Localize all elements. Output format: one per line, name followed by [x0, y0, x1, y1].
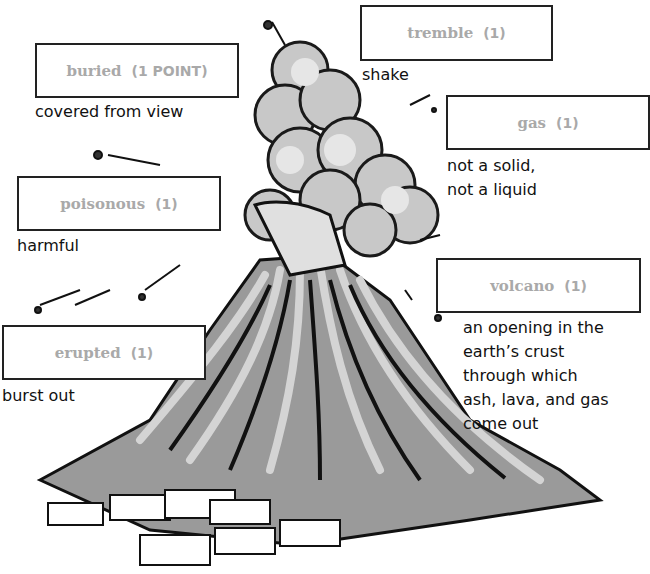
answer-word: buried: [66, 62, 121, 80]
answer-box-poisonous[interactable]: poisonous (1): [17, 176, 221, 231]
definition-tremble: shake: [362, 63, 409, 87]
definition-erupted: burst out: [2, 384, 75, 408]
answer-box-volcano[interactable]: volcano (1): [436, 258, 641, 313]
answer-word: erupted: [55, 344, 121, 362]
answer-box-gas[interactable]: gas (1): [446, 95, 650, 150]
answer-box-tremble[interactable]: tremble (1): [360, 5, 553, 61]
points-label: (1): [564, 278, 587, 294]
points-label: (1): [556, 115, 579, 131]
definition-volcano: an opening in the earth’s crust through …: [463, 316, 609, 436]
points-label: (1 POINT): [131, 63, 207, 79]
points-label: (1): [155, 196, 178, 212]
points-label: (1): [131, 345, 154, 361]
definition-poisonous: harmful: [17, 234, 79, 258]
answer-box-erupted[interactable]: erupted (1): [2, 325, 206, 380]
definition-buried: covered from view: [35, 100, 183, 124]
answer-word: poisonous: [60, 195, 145, 213]
answer-word: tremble: [407, 24, 473, 42]
definition-gas: not a solid, not a liquid: [447, 154, 537, 202]
answer-box-buried[interactable]: buried (1 POINT): [35, 43, 239, 98]
answer-word: gas: [517, 114, 546, 132]
answer-word: volcano: [490, 277, 554, 295]
points-label: (1): [483, 25, 506, 41]
